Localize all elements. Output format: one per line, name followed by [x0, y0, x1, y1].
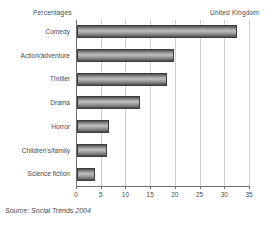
bar-row: Horror [76, 115, 249, 139]
tick-mark-5 [101, 186, 102, 189]
category-label: Drama [50, 91, 70, 115]
bar-row: Children's/family [76, 139, 249, 163]
bar-row: Science fiction [76, 162, 249, 186]
bar-row: Drama [76, 91, 249, 115]
x-tick-label-10: 10 [122, 191, 129, 198]
category-label: Science fiction [27, 162, 70, 186]
bar [77, 49, 174, 62]
x-tick-label-15: 15 [147, 191, 154, 198]
tick-mark-10 [125, 186, 126, 189]
x-axis-line [76, 186, 249, 187]
source-caption: Source: Social Trends 2004 [5, 207, 91, 214]
x-tick-label-5: 5 [99, 191, 103, 198]
x-tick-label-20: 20 [171, 191, 178, 198]
bar [77, 144, 107, 157]
units-label: Percentages [33, 9, 72, 16]
bar [77, 120, 109, 133]
bar-row: Thriller [76, 67, 249, 91]
chart-figure: Percentages United Kingdom 0510152025303… [0, 0, 268, 225]
category-label: Action/adventure [21, 44, 71, 68]
tick-mark-15 [150, 186, 151, 189]
x-tick-label-0: 0 [74, 191, 78, 198]
tick-mark-35 [249, 186, 250, 189]
tick-mark-20 [175, 186, 176, 189]
bar [77, 168, 95, 181]
tick-mark-0 [76, 186, 77, 189]
category-label: Horror [51, 115, 70, 139]
category-label: Children's/family [22, 139, 70, 163]
bar-row: Comedy [76, 20, 249, 44]
bar [77, 96, 140, 109]
tick-mark-30 [224, 186, 225, 189]
bar [77, 73, 167, 86]
bar [77, 25, 237, 38]
x-tick-label-35: 35 [245, 191, 252, 198]
tick-mark-25 [200, 186, 201, 189]
bar-row: Action/adventure [76, 44, 249, 68]
x-tick-label-30: 30 [221, 191, 228, 198]
plot-area: 05101520253035 ComedyAction/adventureThr… [76, 20, 249, 186]
region-label: United Kingdom [210, 9, 259, 16]
category-label: Comedy [45, 20, 70, 44]
gridline-35 [249, 20, 250, 186]
x-tick-label-25: 25 [196, 191, 203, 198]
category-label: Thriller [50, 67, 70, 91]
